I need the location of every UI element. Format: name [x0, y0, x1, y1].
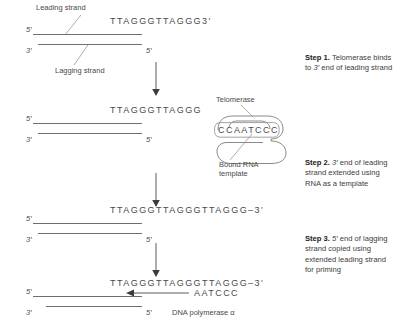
bound-rna-leader-line	[228, 134, 256, 162]
panel-2: 5′ 3′ 5′ TTAGGGTTAGGG CCAATCCC Telomeras…	[0, 96, 300, 184]
telomerase-label: Telomerase	[216, 95, 255, 105]
panel1-leading-strand-line	[33, 34, 142, 35]
panel3-prime-top-left: 5′	[26, 214, 32, 223]
panel4-prime-top-left: 5′	[26, 287, 32, 296]
panel2-prime-bottom-right: 5′	[146, 135, 152, 144]
dna-polymerase-label: DNA polymerase α	[172, 308, 235, 318]
step-2-number: Step 2.	[305, 158, 330, 167]
lagging-strand-label: Lagging strand	[55, 66, 105, 76]
leading-strand-leader-line	[55, 14, 95, 36]
panel2-lagging-strand-line	[38, 133, 142, 134]
panel3-top-sequence: TTAGGGTTAGGGTTAGGG–3′	[110, 205, 264, 215]
panel1-prime-top-left: 5′	[26, 25, 32, 34]
panel4-lagging-strand-line	[46, 306, 142, 307]
bound-rna-label-line2: template	[219, 169, 248, 179]
step-1-body-b: end of leading strand	[319, 63, 392, 72]
panel4-prime-bottom-left: 3′	[26, 308, 32, 317]
panel2-prime-bottom-left: 3′	[26, 135, 32, 144]
panel1-top-sequence: TTAGGGTTAGGG3′	[110, 16, 212, 26]
step-1-number: Step 1.	[305, 53, 330, 62]
step-1-text: Step 1. Telomerase binds to 3′ end of le…	[305, 53, 395, 74]
flow-arrow-2	[149, 173, 163, 209]
step-3-number: Step 3.	[305, 234, 330, 243]
panel3-leading-strand-line	[33, 223, 142, 224]
lagging-strand-leader-line	[68, 45, 98, 67]
panel2-leading-strand-line	[33, 123, 142, 124]
polymerase-arrow-icon	[122, 287, 192, 299]
panel3-lagging-strand-line	[38, 233, 142, 234]
flow-arrow-3	[149, 243, 163, 279]
step-2-text: Step 2. 3′ end of leading strand extende…	[305, 158, 395, 189]
panel1-prime-bottom-left: 3′	[26, 46, 32, 55]
telomerase-leader-line	[238, 105, 260, 119]
flow-arrow-1	[149, 62, 163, 98]
panel1-prime-bottom-right: 5′	[146, 46, 152, 55]
panel2-top-sequence: TTAGGGTTAGGG	[110, 105, 202, 115]
panel4-prime-bottom-right: 5′	[146, 308, 152, 317]
panel-4: 5′ 3′ 5′ TTAGGGTTAGGGTTAGGG–3′ AATCCC DN…	[0, 278, 300, 328]
panel4-primer-sequence: AATCCC	[194, 288, 239, 298]
panel2-prime-top-left: 5′	[26, 114, 32, 123]
step-3-text: Step 3. 5′ end of lagging strand copied …	[305, 234, 395, 276]
panel3-prime-bottom-left: 3′	[26, 235, 32, 244]
leading-strand-label: Leading strand	[36, 3, 86, 13]
